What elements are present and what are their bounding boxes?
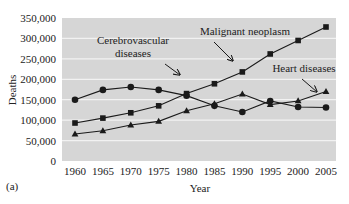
square-marker — [212, 81, 218, 87]
y-tick-label: 300,000 — [20, 32, 56, 44]
y-tick-label: 250,000 — [20, 53, 56, 65]
y-axis-ticks: 050,000100,000150,000200,000250,000300,0… — [20, 12, 56, 167]
x-tick-label: 2000 — [287, 165, 310, 177]
y-axis-label: Deaths — [6, 75, 18, 106]
square-marker — [267, 51, 273, 57]
y-tick-label: 0 — [51, 155, 57, 167]
x-axis-label: Year — [190, 182, 211, 194]
square-marker — [295, 38, 301, 44]
x-tick-label: 1970 — [120, 165, 143, 177]
annotation-text: Malignant neoplasm — [200, 25, 291, 37]
annotation-text: diseases — [115, 47, 151, 59]
circle-marker — [295, 104, 302, 111]
x-tick-label: 1980 — [176, 165, 199, 177]
square-marker — [323, 24, 329, 30]
circle-marker — [72, 96, 79, 103]
circle-marker — [239, 109, 246, 116]
x-tick-label: 1975 — [148, 165, 171, 177]
square-marker — [128, 110, 134, 116]
x-tick-label: 2005 — [315, 165, 338, 177]
x-axis-ticks: 1960196519701975198019851990199520002005 — [64, 165, 338, 177]
annotation-text: Cerebrovascular — [97, 34, 169, 46]
y-tick-label: 150,000 — [20, 94, 56, 106]
y-tick-label: 100,000 — [20, 114, 56, 126]
x-tick-label: 1965 — [92, 165, 115, 177]
circle-marker — [323, 104, 330, 111]
square-marker — [184, 91, 190, 97]
circle-marker — [155, 87, 162, 94]
line-chart: 050,000100,000150,000200,000250,000300,0… — [0, 0, 349, 204]
x-tick-label: 1985 — [203, 165, 226, 177]
square-marker — [72, 120, 78, 126]
x-tick-label: 1995 — [259, 165, 282, 177]
square-marker — [240, 69, 246, 75]
x-tick-label: 1990 — [231, 165, 254, 177]
circle-marker — [100, 87, 107, 94]
y-tick-label: 50,000 — [26, 135, 57, 147]
y-tick-label: 200,000 — [20, 73, 56, 85]
square-marker — [156, 103, 162, 109]
circle-marker — [127, 84, 134, 91]
x-tick-label: 1960 — [64, 165, 87, 177]
square-marker — [100, 115, 106, 121]
y-tick-label: 350,000 — [20, 12, 56, 24]
annotation-text: Heart diseases — [272, 62, 335, 74]
